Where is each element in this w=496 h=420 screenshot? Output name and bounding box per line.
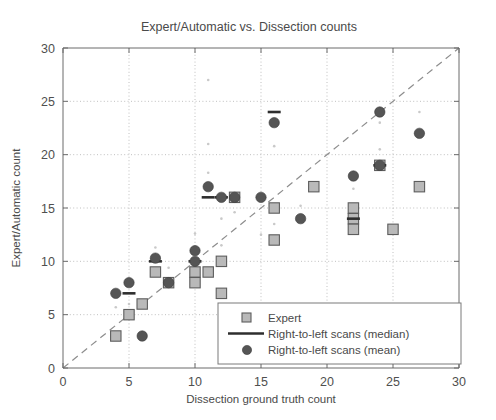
scatter-noise-dot <box>207 79 210 82</box>
mean-data-marker <box>414 128 424 138</box>
x-tick-label: 10 <box>188 375 202 389</box>
mean-data-marker <box>163 277 173 287</box>
y-tick-label: 10 <box>41 255 55 269</box>
expert-data-marker <box>190 277 200 287</box>
expert-data-marker <box>203 267 213 277</box>
scatter-noise-dot <box>273 145 276 148</box>
y-tick-label: 15 <box>41 202 55 216</box>
mean-data-marker <box>124 277 134 287</box>
mean-data-marker <box>375 107 385 117</box>
expert-data-marker <box>216 288 226 298</box>
mean-data-marker <box>190 245 200 255</box>
mean-data-marker <box>137 331 147 341</box>
x-tick-label: 25 <box>386 375 400 389</box>
scatter-noise-dot <box>115 306 118 309</box>
x-tick-label: 5 <box>126 375 133 389</box>
y-tick-label: 20 <box>41 148 55 162</box>
y-tick-label: 0 <box>48 362 55 376</box>
legend-circle-icon <box>242 345 251 354</box>
y-tick-label: 25 <box>41 95 55 109</box>
legend-label-median: Right-to-left scans (median) <box>268 328 409 340</box>
x-tick-label: 30 <box>452 375 466 389</box>
expert-data-marker <box>216 256 226 266</box>
mean-data-marker <box>216 192 226 202</box>
scatter-noise-dot <box>233 211 236 214</box>
mean-data-marker <box>269 117 279 127</box>
mean-data-marker <box>150 253 160 263</box>
y-tick-label: 30 <box>41 42 55 56</box>
expert-data-marker <box>124 309 134 319</box>
scatter-noise-dot <box>418 111 421 114</box>
scatter-noise-dot <box>220 217 223 220</box>
chart-legend[interactable]: Expert Right-to-left scans (median) Righ… <box>218 303 461 364</box>
scatter-noise-dot <box>207 143 210 146</box>
y-tick-label: 5 <box>48 308 55 322</box>
mean-data-marker <box>190 256 200 266</box>
expert-data-marker <box>348 203 358 213</box>
expert-data-marker <box>111 331 121 341</box>
scatter-noise-dot <box>194 232 197 235</box>
expert-data-marker <box>388 224 398 234</box>
scatter-noise-dot <box>379 121 382 124</box>
expert-data-marker <box>269 203 279 213</box>
mean-data-marker <box>111 288 121 298</box>
expert-data-marker <box>150 267 160 277</box>
x-tick-label: 15 <box>254 375 268 389</box>
scatter-noise-dot <box>299 205 302 208</box>
expert-data-marker <box>137 299 147 309</box>
scatter-noise-dot <box>154 246 157 249</box>
mean-data-marker <box>295 213 305 223</box>
expert-data-marker <box>190 267 200 277</box>
mean-data-marker <box>348 171 358 181</box>
expert-data-marker <box>309 181 319 191</box>
mean-data-marker <box>203 181 213 191</box>
legend-label-expert: Expert <box>268 312 302 324</box>
scatter-noise-dot <box>220 244 223 247</box>
expert-data-marker <box>348 224 358 234</box>
scatter-noise-dot <box>260 233 263 236</box>
scatter-noise-dot <box>128 303 131 306</box>
chart-title: Expert/Automatic vs. Dissection counts <box>141 20 357 34</box>
expert-data-marker <box>414 181 424 191</box>
x-tick-label: 0 <box>60 375 67 389</box>
expert-data-marker <box>269 235 279 245</box>
scatter-plot-figure: Expert/Automatic vs. Dissection counts 0… <box>0 0 496 420</box>
legend-item-expert[interactable]: Expert <box>242 312 302 324</box>
mean-data-marker <box>229 192 239 202</box>
mean-data-marker <box>256 192 266 202</box>
x-axis-label: Dissection ground truth count <box>186 393 336 405</box>
legend-label-mean: Right-to-left scans (mean) <box>268 344 400 356</box>
x-tick-label: 20 <box>320 375 334 389</box>
scatter-noise-dot <box>352 188 355 191</box>
scatter-noise-dot <box>379 148 382 151</box>
scatter-noise-dot <box>207 172 210 175</box>
y-axis-label: Expert/Automatic count <box>10 148 22 268</box>
legend-square-icon <box>242 313 251 322</box>
scatter-noise-dot <box>273 223 276 226</box>
scatter-noise-dot <box>167 266 170 269</box>
chart-svg: Expert/Automatic vs. Dissection counts 0… <box>0 0 496 420</box>
mean-data-marker <box>375 160 385 170</box>
